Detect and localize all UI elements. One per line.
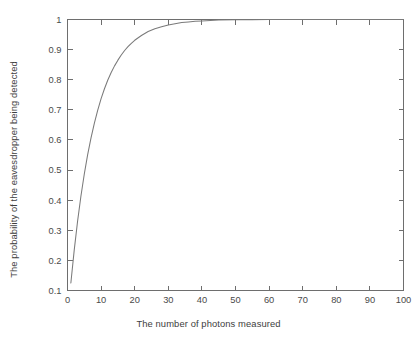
x-tick-label: 40 bbox=[197, 295, 207, 305]
x-tick-label: 90 bbox=[365, 295, 375, 305]
x-tick-label: 30 bbox=[163, 295, 173, 305]
y-tick-label: 0.6 bbox=[49, 135, 62, 145]
y-tick-label: 0.3 bbox=[49, 226, 62, 236]
x-tick-label: 50 bbox=[230, 295, 240, 305]
x-axis-title: The number of photons measured bbox=[0, 318, 417, 329]
chart-background bbox=[0, 0, 417, 339]
x-tick-label: 20 bbox=[130, 295, 140, 305]
y-tick-label: 0.1 bbox=[49, 286, 62, 296]
y-axis-title: The probability of the eavesdropper bein… bbox=[7, 0, 21, 339]
y-tick-label: 0.7 bbox=[49, 105, 62, 115]
x-tick-label: 0 bbox=[65, 295, 70, 305]
y-tick-label: 0.9 bbox=[49, 45, 62, 55]
chart-figure: 0102030405060708090100 0.10.20.30.40.50.… bbox=[0, 0, 417, 339]
x-tick-label: 80 bbox=[331, 295, 341, 305]
y-tick-label: 0.4 bbox=[49, 196, 62, 206]
x-tick-label: 70 bbox=[298, 295, 308, 305]
x-tick-label: 60 bbox=[264, 295, 274, 305]
y-tick-label: 0.2 bbox=[49, 256, 62, 266]
chart-plot-area: 0102030405060708090100 0.10.20.30.40.50.… bbox=[0, 0, 417, 339]
y-tick-label: 0.5 bbox=[49, 165, 62, 175]
y-tick-label: 0.8 bbox=[49, 75, 62, 85]
y-tick-label: 1 bbox=[56, 15, 61, 25]
x-tick-label: 100 bbox=[396, 295, 412, 305]
x-tick-label: 10 bbox=[96, 295, 106, 305]
